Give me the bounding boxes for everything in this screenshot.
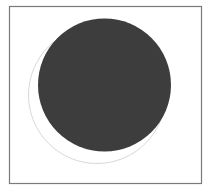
filled-circle-shape xyxy=(38,19,171,152)
diagram-canvas xyxy=(0,0,207,189)
